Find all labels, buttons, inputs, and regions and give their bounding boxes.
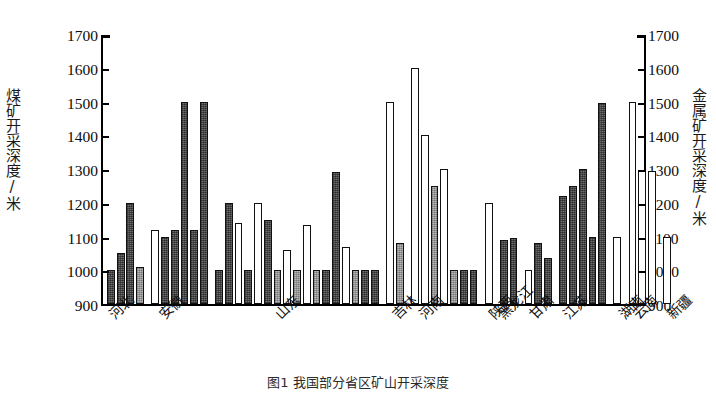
bar: [235, 223, 243, 304]
bar: [470, 270, 478, 304]
y-tickmark-right-1700: [638, 35, 646, 37]
bar: [254, 203, 262, 304]
y-tick-label-left-900: 900: [52, 298, 98, 314]
bar: [371, 270, 379, 304]
bar: [200, 102, 208, 305]
y-tickmark-right-1600: [638, 69, 646, 71]
y-tick-label-left-1000: 1000: [52, 264, 98, 280]
bar: [181, 102, 189, 305]
bar: [629, 102, 637, 305]
bar: [322, 270, 330, 304]
bar: [663, 237, 671, 305]
y-tickmark-left-1600: [101, 69, 109, 71]
y-tickmark-right-1300: [638, 170, 646, 172]
bar: [648, 171, 656, 304]
y-axis-ticks-left: 17001600150014001300120011001000900: [52, 0, 98, 393]
y-tick-label-left-1400: 1400: [52, 129, 98, 145]
y-tickmark-left-1100: [101, 238, 109, 240]
y-tick-label-left-1600: 1600: [52, 62, 98, 78]
bar: [431, 186, 439, 304]
bar: [313, 270, 321, 304]
y-tickmark-left-1200: [101, 204, 109, 206]
y-tick-label-left-1200: 1200: [52, 197, 98, 213]
bar: [215, 270, 223, 304]
bar: [151, 230, 159, 304]
y-tick-label-left-1100: 1100: [52, 231, 98, 247]
bar: [361, 270, 369, 304]
bar: [579, 169, 587, 304]
y-tickmark-left-1300: [101, 170, 109, 172]
bar: [352, 270, 360, 304]
y-tickmark-right-1100: [638, 238, 646, 240]
y-tickmark-left-1500: [101, 103, 109, 105]
figure-caption: 图1 我国部分省区矿山开采深度: [0, 372, 716, 393]
bar: [421, 135, 429, 304]
bar: [126, 203, 134, 304]
bar: [303, 225, 311, 304]
bar: [440, 169, 448, 304]
y-axis-label-left: 煤矿开采深度/米: [4, 88, 19, 268]
bar: [396, 243, 404, 304]
y-tickmark-left-1400: [101, 136, 109, 138]
y-tick-label-right-1600: 1600: [648, 62, 694, 78]
y-tickmark-right-1200: [638, 204, 646, 206]
bar: [190, 230, 198, 304]
bar-series-container: [103, 36, 644, 304]
y-tick-label-left-1500: 1500: [52, 96, 98, 112]
bar: [107, 270, 115, 304]
bar: [460, 270, 468, 304]
y-tickmark-left-1000: [101, 271, 109, 273]
bar: [274, 270, 282, 304]
y-tick-label-right-1500: 1500: [648, 96, 694, 112]
bar: [264, 220, 272, 304]
bar: [244, 270, 252, 304]
y-tickmark-right-1400: [638, 136, 646, 138]
bar: [559, 196, 567, 304]
y-tick-label-right-1700: 1700: [648, 28, 694, 44]
bar: [450, 270, 458, 304]
y-tick-label-left-1700: 1700: [52, 28, 98, 44]
figure-container: 煤矿开采深度/米 金属矿开采深度/米 170016001500140013001…: [0, 0, 716, 393]
bar: [342, 247, 350, 304]
bar: [136, 267, 144, 304]
bar: [161, 237, 169, 305]
bar: [225, 203, 233, 304]
y-tickmark-right-1500: [638, 103, 646, 105]
y-tick-label-left-1300: 1300: [52, 163, 98, 179]
y-tickmark-right-1000: [638, 271, 646, 273]
y-tick-label-right-1400: 1400: [648, 129, 694, 145]
bar: [589, 237, 597, 305]
bar: [569, 186, 577, 304]
bar: [613, 237, 621, 305]
y-tickmark-left-1700: [101, 35, 109, 37]
bar: [411, 68, 419, 304]
bar: [485, 203, 493, 304]
bar: [598, 103, 606, 304]
bar: [332, 172, 340, 304]
bar: [386, 102, 394, 305]
